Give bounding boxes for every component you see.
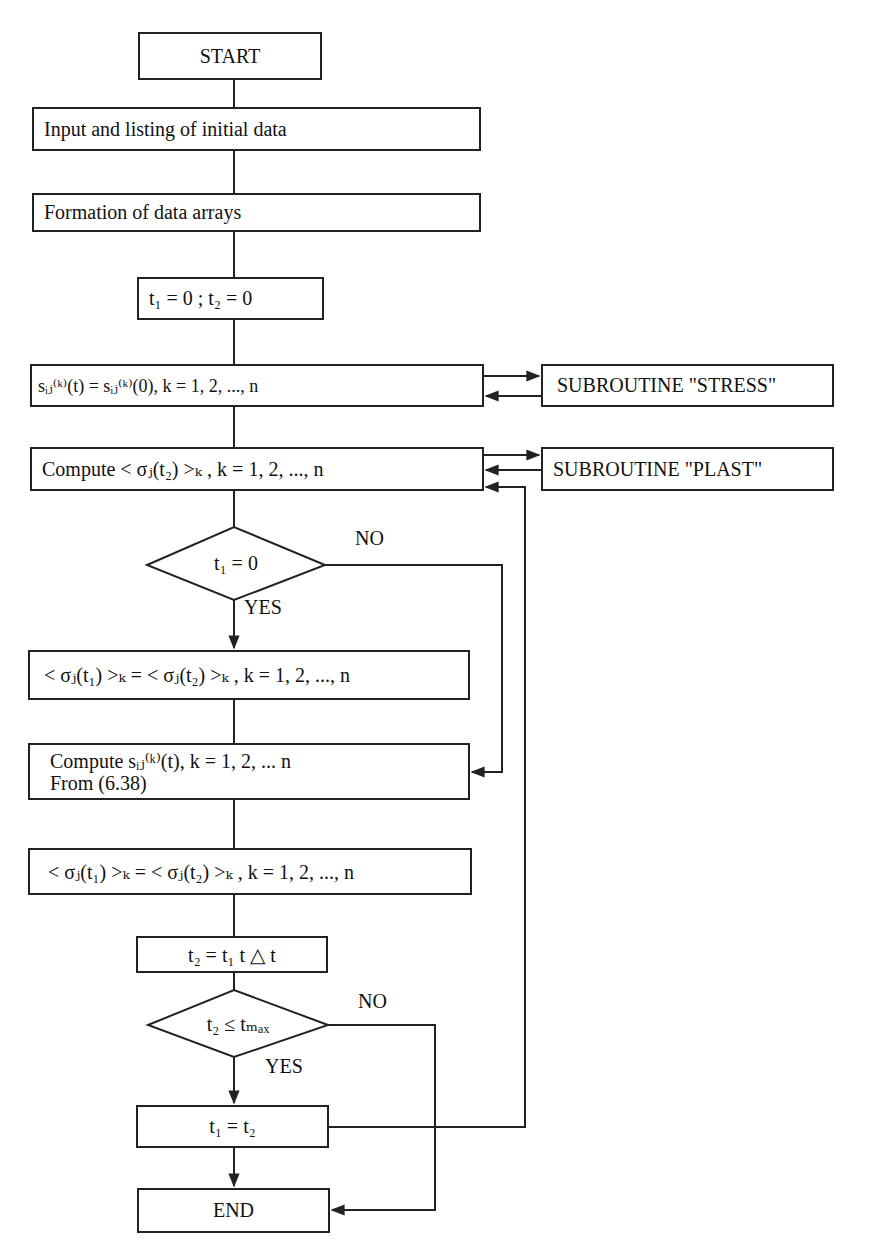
update-time-step: t₁ = t₂ — [136, 1105, 329, 1148]
subroutine-stress: SUBROUTINE "STRESS" — [541, 364, 834, 407]
compute-stress-line2: From (6.38) — [50, 772, 147, 794]
subroutine-stress-label: SUBROUTINE "STRESS" — [557, 374, 776, 397]
compute-stress-line1: Compute sᵢⱼ⁽ᵏ⁾(t), k = 1, 2, ... n — [50, 750, 291, 772]
decision1-yes-label: YES — [244, 596, 282, 619]
end-terminal: END — [137, 1188, 330, 1233]
compute-sigma-label: Compute < σⱼ(t₂) >ₖ , k = 1, 2, ..., n — [42, 457, 323, 481]
update-time-label: t₁ = t₂ — [209, 1115, 255, 1138]
assign-sigma-1-label: < σⱼ(t₁) >ₖ = < σⱼ(t₂) >ₖ , k = 1, 2, ..… — [44, 663, 350, 687]
assign-sigma-2-label: < σⱼ(t₁) >ₖ = < σⱼ(t₂) >ₖ , k = 1, 2, ..… — [48, 860, 354, 884]
start-label: START — [200, 45, 261, 68]
init-stress-label: sᵢⱼ⁽ᵏ⁾(t) = sᵢⱼ⁽ᵏ⁾(0), k = 1, 2, ..., n — [38, 375, 258, 397]
decision2-yes-label: YES — [265, 1055, 303, 1078]
formation-step: Formation of data arrays — [32, 193, 481, 232]
assign-sigma-step-2: < σⱼ(t₁) >ₖ = < σⱼ(t₂) >ₖ , k = 1, 2, ..… — [28, 848, 472, 895]
decision2-condition: t₂ ≤ tₘₐₓ — [207, 1012, 270, 1036]
init-time-label: t₁ = 0 ; t₂ = 0 — [149, 287, 252, 310]
time-step-increment: t₂ = t₁ t △ t — [136, 936, 328, 973]
init-stress-step: sᵢⱼ⁽ᵏ⁾(t) = sᵢⱼ⁽ᵏ⁾(0), k = 1, 2, ..., n — [30, 364, 484, 407]
start-terminal: START — [138, 32, 322, 80]
decision1-condition: t₁ = 0 — [214, 552, 258, 575]
end-label: END — [213, 1199, 254, 1222]
input-step: Input and listing of initial data — [32, 107, 481, 151]
assign-sigma-step-1: < σⱼ(t₁) >ₖ = < σⱼ(t₂) >ₖ , k = 1, 2, ..… — [28, 650, 470, 700]
connector-lines — [0, 0, 870, 1254]
decision1-no-label: NO — [355, 527, 384, 550]
compute-sigma-step: Compute < σⱼ(t₂) >ₖ , k = 1, 2, ..., n — [30, 447, 484, 491]
compute-stress-step: Compute sᵢⱼ⁽ᵏ⁾(t), k = 1, 2, ... n From … — [28, 743, 470, 800]
formation-step-label: Formation of data arrays — [44, 201, 241, 224]
decision2-no-label: NO — [358, 990, 387, 1013]
input-step-label: Input and listing of initial data — [44, 118, 287, 141]
subroutine-plast: SUBROUTINE "PLAST" — [541, 447, 834, 491]
time-step-label: t₂ = t₁ t △ t — [188, 943, 276, 967]
subroutine-plast-label: SUBROUTINE "PLAST" — [553, 458, 762, 481]
init-time-step: t₁ = 0 ; t₂ = 0 — [137, 277, 324, 320]
